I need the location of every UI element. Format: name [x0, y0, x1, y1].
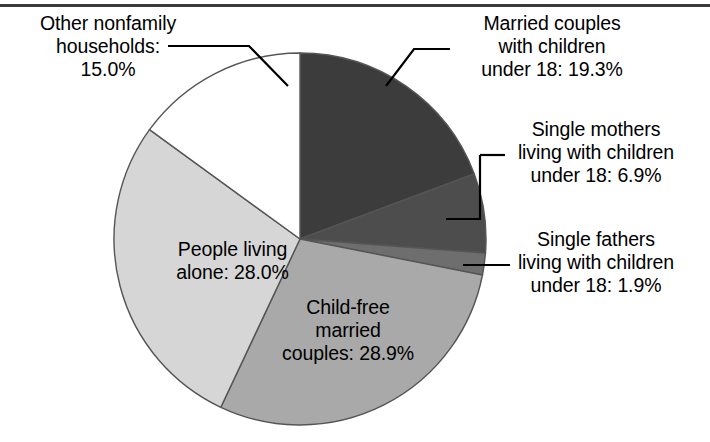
slice-label-single-mothers: Single mothers living with children unde…: [487, 118, 705, 187]
slice-label-other-nonfamily-households: Other nonfamily households: 15.0%: [8, 12, 208, 81]
top-divider-rule: [0, 4, 710, 7]
slice-label-married-couples-with-children: Married couples with children under 18: …: [437, 12, 667, 81]
slice-label-single-fathers: Single fathers living with children unde…: [487, 228, 705, 297]
slice-label-people-living-alone: People living alone: 28.0%: [140, 238, 325, 284]
pie-chart-figure: Other nonfamily households: 15.0% Marrie…: [0, 0, 710, 442]
slice-label-child-free-married-couples: Child-free married couples: 28.9%: [262, 296, 434, 365]
